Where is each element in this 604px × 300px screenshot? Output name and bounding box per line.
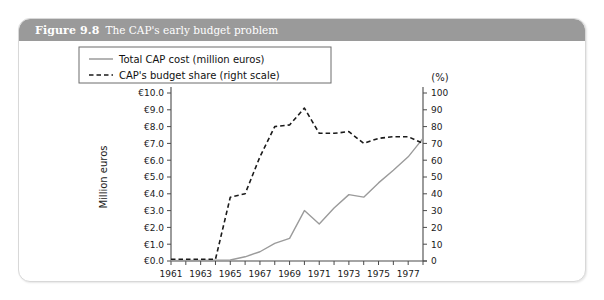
x-axis-tick-label: 1963	[189, 269, 212, 279]
y-axis-right-tick-label: 30	[431, 206, 443, 216]
x-axis-tick-label: 1969	[278, 269, 301, 279]
y-axis-left-tick-label: €6.0	[144, 156, 164, 166]
y-axis-left-tick-label: €5.0	[144, 172, 164, 182]
chart-plot-area: €0.0€1.0€2.0€3.0€4.0€5.0€6.0€7.0€8.0€9.0…	[19, 41, 585, 282]
figure-card: Figure 9.8 The CAP's early budget proble…	[18, 18, 586, 282]
y-axis-left-tick-label: €4.0	[144, 189, 164, 199]
chart-legend: Total CAP cost (million euros)CAP's budg…	[79, 47, 331, 83]
figure-caption: The CAP's early budget problem	[105, 24, 278, 36]
y-axis-right-title: (%)	[431, 72, 448, 83]
y-axis-right-tick-label: 90	[431, 105, 443, 115]
y-axis-right-tick-label: 70	[431, 139, 443, 149]
y-axis-right-tick-label: 0	[431, 256, 437, 266]
y-axis-right-tick-label: 80	[431, 122, 443, 132]
y-axis-left-tick-label: €7.0	[144, 139, 164, 149]
x-axis-tick-label: 1961	[160, 269, 183, 279]
y-axis-right-tick-label: 20	[431, 223, 443, 233]
y-axis-left-tick-label: €8.0	[144, 122, 164, 132]
y-axis-right-tick-label: 40	[431, 189, 443, 199]
y-axis-left-tick-label: €9.0	[144, 105, 164, 115]
y-axis-left-tick-label: €1.0	[144, 240, 164, 250]
line-chart: €0.0€1.0€2.0€3.0€4.0€5.0€6.0€7.0€8.0€9.0…	[19, 41, 586, 282]
legend-label-2: CAP's budget share (right scale)	[119, 70, 280, 81]
x-axis-tick-label: 1965	[219, 269, 242, 279]
series-line-1	[171, 138, 423, 260]
figure-number: Figure 9.8	[35, 24, 99, 37]
y-axis-left-tick-label: €3.0	[144, 206, 164, 216]
y-axis-right-tick-label: 100	[431, 88, 448, 98]
x-axis-tick-label: 1967	[248, 269, 271, 279]
y-axis-right-tick-label: 10	[431, 240, 443, 250]
x-axis-tick-label: 1971	[308, 269, 331, 279]
legend-label-1: Total CAP cost (million euros)	[118, 54, 265, 65]
y-axis-left-tick-label: €0.0	[144, 256, 164, 266]
x-axis-tick-label: 1977	[397, 269, 420, 279]
series-line-2	[171, 108, 423, 259]
figure-header-bar: Figure 9.8 The CAP's early budget proble…	[19, 19, 585, 41]
y-axis-left-tick-label: €2.0	[144, 223, 164, 233]
y-axis-right-tick-label: 50	[431, 172, 443, 182]
x-axis-tick-label: 1973	[337, 269, 360, 279]
y-axis-left-tick-label: €10.0	[138, 88, 164, 98]
y-axis-right-tick-label: 60	[431, 156, 443, 166]
y-axis-left-title: Million euros	[98, 145, 109, 208]
x-axis-tick-label: 1975	[367, 269, 390, 279]
